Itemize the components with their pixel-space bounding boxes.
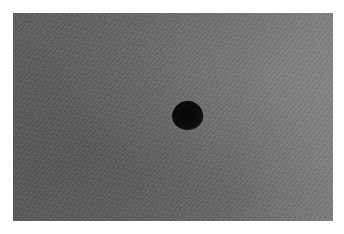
photograph (13, 13, 333, 221)
